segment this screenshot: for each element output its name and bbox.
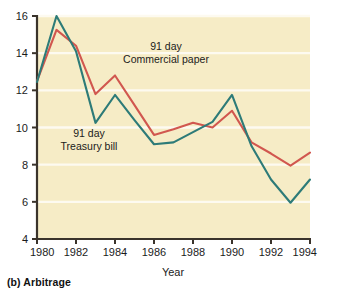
- x-tick-label: 1986: [142, 246, 166, 258]
- y-tick-label: 4: [22, 233, 28, 245]
- interest-rate-line-chart: 46810121416 1980198219841986198819901992…: [0, 0, 337, 296]
- x-tick-label: 1992: [259, 246, 283, 258]
- x-axis-title: Year: [162, 266, 185, 278]
- x-tick-label: 1980: [30, 246, 54, 258]
- y-tick-label: 10: [16, 122, 28, 134]
- y-tick-label: 6: [22, 196, 28, 208]
- y-tick-label: 8: [22, 159, 28, 171]
- commercial-paper-label-line2: Commercial paper: [123, 53, 209, 65]
- y-tick-label: 12: [16, 84, 28, 96]
- commercial-paper-label: 91 day: [150, 40, 182, 52]
- y-tick-label: 14: [16, 47, 28, 59]
- treasury-bill-label-line2: Treasury bill: [61, 140, 118, 152]
- x-tick-label: 1982: [64, 246, 88, 258]
- figure-caption: (b) Arbitrage: [7, 276, 71, 288]
- y-axis-tick-labels: 46810121416: [16, 10, 28, 245]
- figure-container: 46810121416 1980198219841986198819901992…: [0, 0, 337, 296]
- x-tick-label: 1990: [220, 246, 244, 258]
- x-tick-label: 1988: [181, 246, 205, 258]
- treasury-bill-label: 91 day: [73, 127, 105, 139]
- x-axis-tick-labels: 19801982198419861988199019921994: [30, 246, 317, 258]
- x-tick-label: 1984: [103, 246, 127, 258]
- x-tick-label: 1994: [293, 246, 317, 258]
- y-tick-label: 16: [16, 10, 28, 22]
